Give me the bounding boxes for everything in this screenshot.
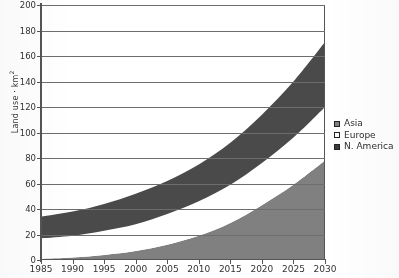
y-tickmark-200 (37, 5, 42, 6)
legend-item-asia[interactable]: Asia (334, 118, 394, 130)
y-tickmark-20 (37, 235, 42, 236)
plot-area (41, 5, 325, 260)
x-axis-tick-1985: 1985 (30, 264, 53, 274)
y-axis-tick-100: 100 (10, 128, 36, 138)
legend-label: Asia (344, 118, 363, 130)
legend-item-europe[interactable]: Europe (334, 130, 394, 142)
y-axis-tick-80: 80 (10, 153, 36, 163)
gridline-100 (41, 133, 325, 134)
x-axis-tick-1990: 1990 (61, 264, 84, 274)
x-axis-tick-2000: 2000 (124, 264, 147, 274)
y-axis-tick-160: 160 (10, 51, 36, 61)
gridline-140 (41, 82, 325, 83)
y-axis-tick-120: 120 (10, 102, 36, 112)
gridline-200 (41, 5, 325, 6)
y-axis-tick-40: 40 (10, 204, 36, 214)
y-tickmark-100 (37, 133, 42, 134)
x-axis-line (40, 259, 326, 260)
y-axis-tick-20: 20 (10, 230, 36, 240)
legend-swatch-icon (334, 144, 340, 150)
y-tickmark-120 (37, 107, 42, 108)
legend-label: Europe (344, 130, 376, 142)
y-tickmark-160 (37, 56, 42, 57)
y-axis-tick-200: 200 (10, 0, 36, 10)
x-axis-tick-2025: 2025 (282, 264, 305, 274)
legend-label: N. America (344, 141, 394, 153)
x-axis-tick-1995: 1995 (93, 264, 116, 274)
gridline-40 (41, 209, 325, 210)
legend-swatch-icon (334, 121, 340, 127)
y-axis-tick-180: 180 (10, 26, 36, 36)
chart-legend: AsiaEuropeN. America (334, 118, 394, 153)
y-tickmark-60 (37, 184, 42, 185)
gridline-120 (41, 107, 325, 108)
gridline-180 (41, 31, 325, 32)
legend-swatch-icon (334, 132, 340, 138)
gridline-20 (41, 235, 325, 236)
x-axis-tick-2030: 2030 (314, 264, 337, 274)
y-tickmark-180 (37, 31, 42, 32)
x-axis-tick-2015: 2015 (219, 264, 242, 274)
y-tickmark-140 (37, 82, 42, 83)
x-axis-tick-2005: 2005 (156, 264, 179, 274)
chart-figure: Land use · km2 0204060801001201401601802… (0, 0, 399, 278)
y-axis-tick-labels: 020406080100120140160180200 (8, 0, 36, 278)
gridline-80 (41, 158, 325, 159)
gridline-160 (41, 56, 325, 57)
legend-item-n-america[interactable]: N. America (334, 141, 394, 153)
y-tickmark-40 (37, 209, 42, 210)
y-tickmark-80 (37, 158, 42, 159)
y-axis-tick-60: 60 (10, 179, 36, 189)
gridline-60 (41, 184, 325, 185)
x-axis-tick-2020: 2020 (250, 264, 273, 274)
x-axis-tick-2010: 2010 (187, 264, 210, 274)
y-axis-tick-140: 140 (10, 77, 36, 87)
